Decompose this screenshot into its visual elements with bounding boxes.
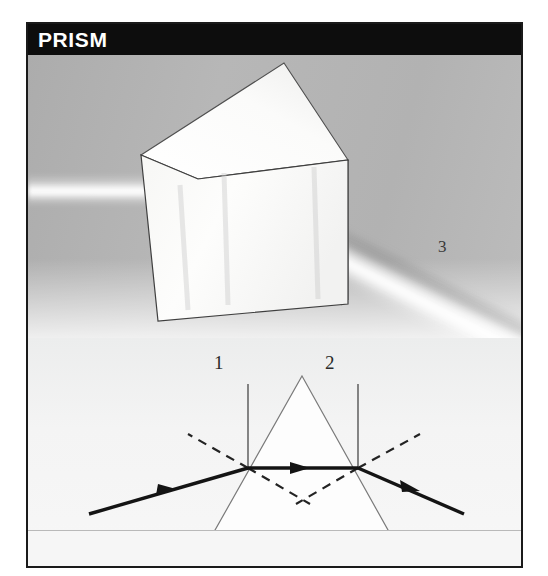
prism-top-face	[141, 63, 348, 179]
ray-diagram-label-1: 1	[214, 352, 224, 374]
ray-diagram-label-2: 2	[325, 352, 335, 374]
prism-photo-geometry	[28, 55, 521, 338]
normal-dashed-exit-upper	[358, 434, 420, 468]
figure-frame: PRISM	[26, 22, 523, 568]
photo-label-3: 3	[438, 237, 447, 257]
emergent-ray-arrowhead	[400, 480, 420, 492]
page-title: PRISM	[38, 28, 108, 51]
figure-title-bar: PRISM	[28, 24, 521, 55]
normal-dashed-entry-upper	[188, 434, 248, 468]
prism-triangle	[210, 376, 393, 539]
caption-strip	[28, 531, 521, 566]
prism-photograph-panel: 3	[28, 55, 521, 338]
